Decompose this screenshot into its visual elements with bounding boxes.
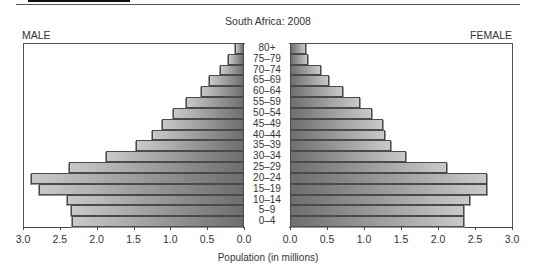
male-tick-label: 1.0 (155, 233, 185, 245)
female-bar (290, 151, 406, 162)
tick-mark (23, 227, 24, 230)
male-tick-label: 3.0 (8, 233, 38, 245)
male-bar (173, 108, 244, 119)
age-label: 15–19 (245, 184, 289, 195)
age-label: 0–4 (245, 216, 289, 227)
age-label: 75–79 (245, 54, 289, 65)
male-bar (72, 216, 244, 227)
female-tick-label: 2.0 (423, 233, 453, 245)
female-bars (290, 43, 512, 227)
male-tick-label: 0.5 (192, 233, 222, 245)
female-bar (290, 195, 470, 206)
tick-mark (364, 227, 365, 230)
age-group-labels: 80+75–7970–7465–6960–6455–5950–5445–4940… (245, 43, 289, 227)
male-bar (71, 205, 244, 216)
female-tick-label: 3.0 (497, 233, 527, 245)
female-bar (290, 130, 385, 141)
chart-title: South Africa: 2008 (0, 15, 536, 27)
female-tick-label: 1.5 (386, 233, 416, 245)
female-bar (290, 75, 329, 86)
male-tick-label: 2.5 (45, 233, 75, 245)
tick-mark (207, 227, 208, 230)
male-bar (136, 140, 244, 151)
tick-mark (97, 227, 98, 230)
age-label: 45–49 (245, 119, 289, 130)
tick-mark (134, 227, 135, 230)
female-bar (290, 43, 306, 54)
female-bar (290, 54, 308, 65)
male-bar (162, 119, 245, 130)
tick-mark (170, 227, 171, 230)
tick-mark (438, 227, 439, 230)
male-bars (23, 43, 244, 227)
tick-mark (401, 227, 402, 230)
male-bar (201, 86, 244, 97)
tick-mark (290, 227, 291, 230)
female-tick-label: 1.0 (349, 233, 379, 245)
male-tick-label: 0.0 (229, 233, 259, 245)
female-bar (290, 140, 391, 151)
male-bar (186, 97, 244, 108)
female-bar (290, 216, 464, 227)
female-tick-label: 0.5 (312, 233, 342, 245)
header-decoration-bar (28, 0, 130, 2)
male-bar (235, 43, 244, 54)
female-bar (290, 65, 321, 76)
male-bar (69, 162, 244, 173)
female-bar (290, 205, 464, 216)
male-bar (209, 75, 244, 86)
tick-mark (512, 227, 513, 230)
male-bar (228, 54, 244, 65)
x-axis-label: Population (in millions) (0, 252, 536, 263)
female-tick-label: 0.0 (275, 233, 305, 245)
male-bar (39, 184, 244, 195)
tick-mark (60, 227, 61, 230)
tick-mark (244, 227, 245, 230)
female-tick-label: 2.5 (460, 233, 490, 245)
male-bar (152, 130, 244, 141)
tick-mark (327, 227, 328, 230)
male-bar (106, 151, 244, 162)
female-bar (290, 86, 343, 97)
female-bar (290, 108, 372, 119)
female-label: FEMALE (470, 29, 512, 41)
female-bar (290, 184, 487, 195)
header-rule (16, 4, 520, 5)
female-bar (290, 162, 447, 173)
male-label: MALE (22, 29, 51, 41)
male-bar (220, 65, 244, 76)
female-bar (290, 119, 383, 130)
male-tick-label: 1.5 (119, 233, 149, 245)
female-bar (290, 97, 360, 108)
male-bar (31, 173, 244, 184)
tick-mark (475, 227, 476, 230)
female-bar (290, 173, 487, 184)
male-tick-label: 2.0 (82, 233, 112, 245)
male-bar (67, 195, 244, 206)
